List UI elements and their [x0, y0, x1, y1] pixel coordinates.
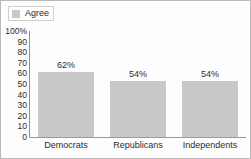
y-axis-tick-30: 30 — [18, 101, 27, 109]
plot-area: 62%54%54% — [30, 31, 246, 138]
y-axis-tick-60: 60 — [18, 69, 27, 77]
y-axis-tick-80: 80 — [18, 48, 27, 56]
y-axis-tick-70: 70 — [18, 59, 27, 67]
x-axis-label: Democrats — [33, 140, 99, 154]
y-axis-tick-0: 0 — [22, 133, 27, 141]
y-axis-tick-40: 40 — [18, 91, 27, 99]
bar-value-label: 62% — [38, 60, 94, 70]
x-axis-label: Independents — [177, 140, 243, 154]
y-axis-tick-20: 20 — [18, 112, 27, 120]
chart-legend: Agree — [8, 6, 54, 21]
x-axis-line — [29, 137, 246, 138]
legend-swatch-agree — [12, 10, 20, 18]
y-axis-tick-labels: 100%9080706050403020100 — [1, 27, 28, 143]
bar — [182, 81, 238, 138]
bar-value-label: 54% — [182, 69, 238, 79]
bar — [38, 72, 94, 138]
bar-slot: 62% — [38, 31, 94, 138]
bar-slot: 54% — [182, 31, 238, 138]
bar-chart: Agree 100%9080706050403020100 62%54%54% … — [0, 0, 251, 159]
y-axis-tick-100: 100% — [5, 27, 27, 35]
x-axis-label: Republicans — [105, 140, 171, 154]
bar-value-label: 54% — [110, 69, 166, 79]
bar-slot: 54% — [110, 31, 166, 138]
bar — [110, 81, 166, 138]
bar-group: 62%54%54% — [30, 31, 246, 138]
x-axis-category-labels: DemocratsRepublicansIndependents — [30, 140, 246, 154]
legend-label-agree: Agree — [25, 9, 49, 18]
y-axis-tick-10: 10 — [18, 122, 27, 130]
y-axis-tick-90: 90 — [18, 38, 27, 46]
y-axis-tick-50: 50 — [18, 80, 27, 88]
